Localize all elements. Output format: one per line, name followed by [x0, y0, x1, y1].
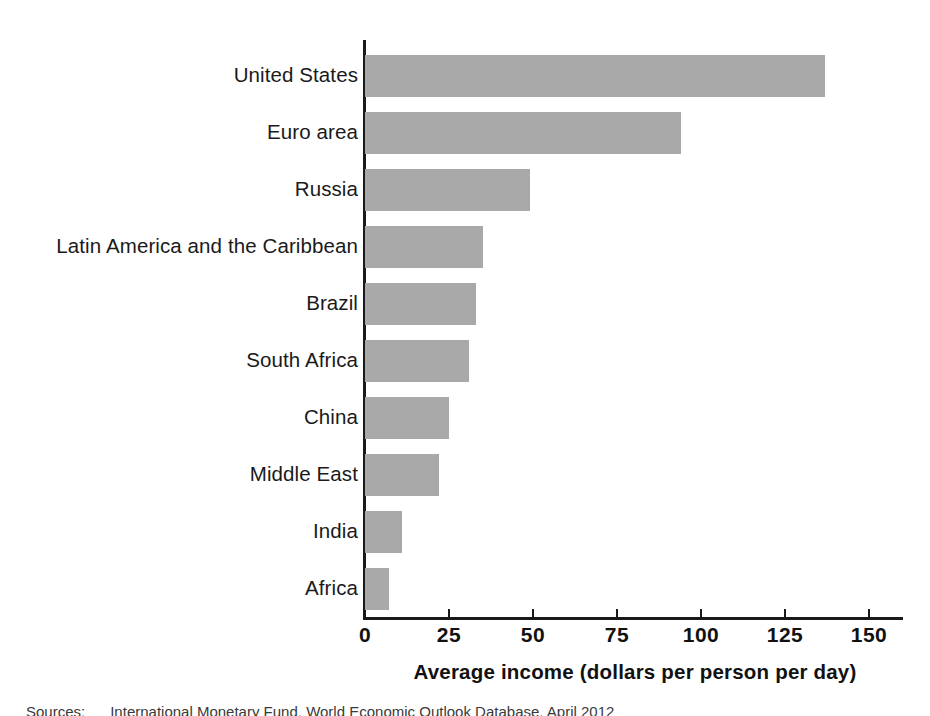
bar-rect	[365, 226, 483, 268]
bar-rect	[365, 568, 389, 610]
bar-rect	[365, 169, 530, 211]
category-label: United States	[234, 63, 358, 87]
bar	[365, 112, 681, 154]
bar	[365, 397, 449, 439]
category-label: Middle East	[250, 462, 358, 486]
bar	[365, 511, 402, 553]
x-tick-label: 25	[437, 623, 461, 647]
bar-rect	[365, 340, 469, 382]
x-tick-mark	[532, 609, 534, 618]
bar-rect	[365, 454, 439, 496]
category-label: Latin America and the Caribbean	[56, 234, 358, 258]
bar-chart-figure: 0255075100125150 United StatesEuro areaR…	[0, 0, 930, 716]
category-label: Brazil	[306, 291, 358, 315]
bar	[365, 169, 530, 211]
category-label: Euro area	[267, 120, 358, 144]
bar-rect	[365, 283, 476, 325]
bar	[365, 340, 469, 382]
bar-rect	[365, 511, 402, 553]
x-tick-label: 75	[605, 623, 629, 647]
bar-rect	[365, 55, 825, 97]
bar-rect	[365, 397, 449, 439]
x-tick-label: 50	[521, 623, 545, 647]
bar	[365, 568, 389, 610]
source-note: Sources: International Monetary Fund, Wo…	[26, 703, 916, 716]
x-tick-mark	[616, 609, 618, 618]
x-tick-label: 100	[683, 623, 720, 647]
x-tick-mark	[700, 609, 702, 618]
bar-rect	[365, 112, 681, 154]
category-label: China	[304, 405, 358, 429]
x-tick-mark	[448, 609, 450, 618]
bar	[365, 454, 439, 496]
x-axis-line	[363, 617, 903, 620]
bar	[365, 55, 825, 97]
category-label: Africa	[305, 576, 358, 600]
x-tick-label: 0	[359, 623, 371, 647]
x-tick-mark	[784, 609, 786, 618]
category-label: India	[313, 519, 358, 543]
x-tick-label: 150	[851, 623, 888, 647]
x-axis-title: Average income (dollars per person per d…	[365, 660, 905, 684]
category-label: Russia	[295, 177, 358, 201]
category-label: South Africa	[246, 348, 358, 372]
x-tick-mark	[868, 609, 870, 618]
bar	[365, 283, 476, 325]
x-tick-label: 125	[767, 623, 804, 647]
bar	[365, 226, 483, 268]
